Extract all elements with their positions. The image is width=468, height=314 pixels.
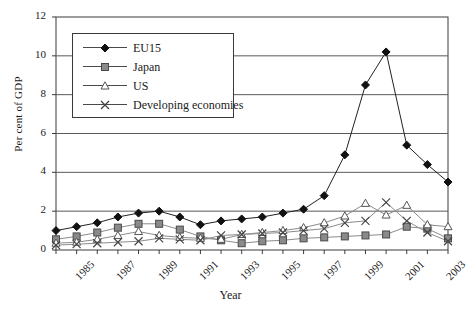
data-point-eu15 (114, 213, 122, 221)
data-point-eu15 (238, 215, 246, 223)
legend: EU15JapanUSDeveloping economies (72, 33, 234, 118)
data-point-us (361, 199, 369, 206)
legend-marker-icon (83, 60, 127, 74)
y-tick-label: 2 (20, 203, 46, 215)
data-point-eu15 (320, 192, 328, 200)
data-point-us (403, 201, 411, 208)
data-point-eu15 (279, 209, 287, 217)
legend-item-us: US (83, 77, 148, 95)
data-point-eu15 (93, 219, 101, 227)
data-point-developing-economies (382, 198, 390, 206)
data-point-eu15 (361, 81, 369, 89)
x-axis-title: Year (0, 288, 461, 303)
data-point-eu15 (217, 217, 225, 225)
data-point-japan (114, 224, 121, 231)
data-point-eu15 (73, 223, 81, 231)
y-tick-label: 6 (20, 126, 46, 138)
legend-marker-icon (83, 98, 127, 112)
y-tick-label: 4 (20, 164, 46, 176)
data-point-eu15 (258, 213, 266, 221)
legend-label: Japan (133, 60, 160, 75)
legend-label: EU15 (133, 41, 161, 56)
data-point-eu15 (135, 209, 143, 217)
data-point-eu15 (52, 227, 60, 235)
data-point-us (341, 212, 349, 219)
data-point-eu15 (341, 151, 349, 159)
data-point-eu15 (155, 207, 163, 215)
data-point-eu15 (300, 205, 308, 213)
data-point-japan (176, 226, 183, 233)
y-tick-label: 12 (20, 9, 46, 21)
data-point-eu15 (196, 221, 204, 229)
data-point-eu15 (176, 213, 184, 221)
data-point-japan (135, 220, 142, 227)
legend-marker-icon (83, 41, 127, 55)
legend-label: Developing economies (133, 98, 243, 113)
data-point-eu15 (382, 48, 390, 56)
data-point-us (135, 227, 143, 234)
data-point-japan (321, 234, 328, 241)
data-point-japan (156, 220, 163, 227)
y-tick-label: 8 (20, 87, 46, 99)
y-tick-label: 10 (20, 48, 46, 60)
legend-marker-icon (83, 79, 127, 93)
data-point-japan (238, 240, 245, 247)
data-point-japan (383, 231, 390, 238)
data-point-japan (362, 232, 369, 239)
data-point-japan (300, 235, 307, 242)
data-point-japan (279, 237, 286, 244)
data-point-us (382, 211, 390, 218)
legend-item-eu15: EU15 (83, 39, 161, 57)
y-tick-label: 0 (20, 242, 46, 254)
legend-item-developing-economies: Developing economies (83, 96, 243, 114)
data-point-japan (403, 223, 410, 230)
legend-label: US (133, 79, 148, 94)
data-point-japan (259, 238, 266, 245)
data-point-japan (341, 233, 348, 240)
legend-item-japan: Japan (83, 58, 160, 76)
